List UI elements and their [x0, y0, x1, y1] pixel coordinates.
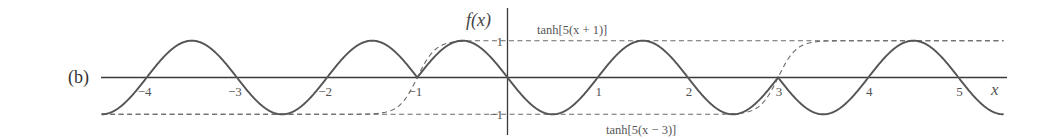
x-tick-label: 3	[776, 84, 783, 99]
figure-panel-b: (b) −4−3−2−112345 1 −1 f(x) x tanh[5(x +…	[0, 0, 1053, 139]
x-tick-label: −3	[228, 84, 242, 99]
x-tick-label: −4	[138, 84, 152, 99]
x-tick-label: −1	[408, 84, 422, 99]
y-axis-label: f(x)	[466, 10, 491, 31]
x-tick-label: 1	[595, 84, 602, 99]
x-tick-label: 5	[956, 84, 963, 99]
x-tick-label: −2	[318, 84, 332, 99]
x-axis-label: x	[990, 80, 999, 99]
x-tick-labels: −4−3−2−112345	[138, 84, 963, 99]
x-tick-label: 2	[686, 84, 693, 99]
panel-label: (b)	[68, 67, 89, 88]
annotation-tanh-minus: tanh[5(x − 3)]	[606, 123, 676, 137]
annotation-tanh-plus: tanh[5(x + 1)]	[537, 23, 607, 37]
y-tick-label-minus-1: −1	[489, 107, 503, 122]
y-tick-label-1: 1	[497, 34, 504, 49]
x-tick-label: 4	[866, 84, 873, 99]
